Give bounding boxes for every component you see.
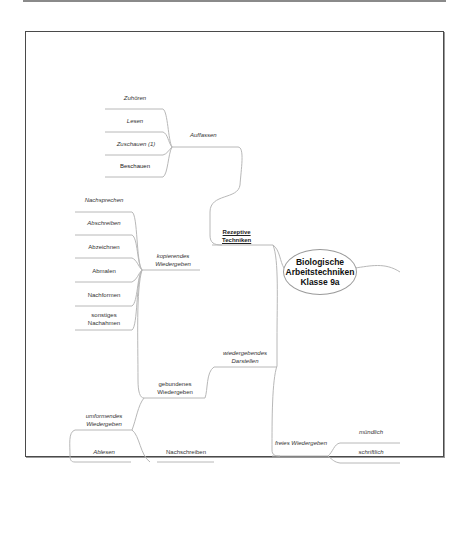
node-gebundenes-wiedergeben[interactable]: gebundenes Wiedergeben: [150, 380, 200, 396]
node-nachschreiben[interactable]: Nachschreiben: [160, 448, 212, 456]
node-abmalen[interactable]: Abmalen: [78, 267, 130, 275]
connector-umformendes-nachschreiben: [132, 430, 150, 462]
node-nachformen[interactable]: Nachformen: [78, 291, 130, 299]
node-schriftlich[interactable]: schriftlich: [345, 448, 397, 456]
connector-kopierendes-gebundenes: [138, 270, 144, 398]
node-auffassen[interactable]: Auffassen: [190, 131, 217, 139]
connector-gebundenes-umformendes: [132, 398, 144, 430]
node-abzeichnen[interactable]: Abzeichnen: [78, 243, 130, 251]
connector-freies-schriftlich: [328, 456, 340, 463]
central-topic-label: Biologische Arbeitstechniken Klasse 9a: [286, 257, 355, 287]
node-umformendes-wiedergeben[interactable]: umformendes Wiedergeben: [78, 412, 130, 428]
connector-kopierendes-abzeichnen: [132, 258, 142, 270]
node-abschreiben[interactable]: Abschreiben: [78, 219, 130, 227]
connector-auffassen-zuhoeren: [163, 109, 172, 147]
central-topic-node[interactable]: Biologische Arbeitstechniken Klasse 9a: [283, 249, 357, 295]
node-rezeptive-techniken[interactable]: Rezeptive Techniken: [222, 228, 251, 244]
node-freies-wiedergeben[interactable]: freies Wiedergeben: [274, 439, 328, 447]
node-muendlich[interactable]: mündlich: [345, 428, 397, 436]
node-lesen[interactable]: Lesen: [110, 117, 160, 125]
connector-umformendes-ablesen: [70, 430, 75, 462]
node-sonstiges-nachahmen[interactable]: sonstiges Nachahmen: [78, 311, 130, 327]
connector-center-wiedergebendes: [273, 245, 277, 366]
node-beschauen[interactable]: Beschauen: [110, 162, 160, 170]
connector-auffassen-lesen: [163, 132, 172, 147]
connector-center-right: [355, 266, 400, 273]
connector-rezeptive-center: [273, 245, 284, 268]
node-zuhoeren[interactable]: Zuhören: [110, 94, 160, 102]
connector-kopierendes-nachsprechen: [132, 212, 142, 270]
node-wiedergebendes-darstellen[interactable]: wiedergebendes Darstellen: [218, 349, 272, 365]
node-kopierendes-wiedergeben[interactable]: kopierendes Wiedergeben: [148, 252, 198, 268]
connector-lines: [0, 0, 468, 557]
node-nachsprechen[interactable]: Nachsprechen: [78, 196, 130, 204]
connector-wiedergebendes-gebundenes: [205, 367, 214, 398]
node-zuschauen[interactable]: Zuschauen (1): [108, 140, 164, 148]
connector-freies-muendlich: [328, 443, 340, 456]
node-ablesen[interactable]: Ablesen: [78, 448, 130, 456]
